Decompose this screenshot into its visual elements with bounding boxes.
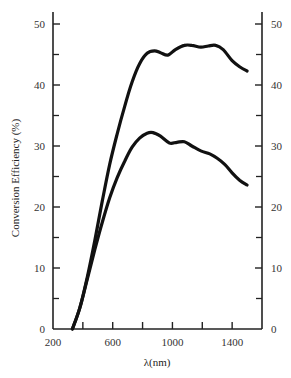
upper-efficiency-curve [72,45,247,329]
y-tick-label-right: 40 [271,79,283,91]
y-tick-label-right: 10 [271,262,283,274]
y-tick-label-right: 30 [271,140,283,152]
y-tick-label-left: 40 [34,79,46,91]
x-tick-label: 1400 [221,336,244,348]
y-tick-label-left: 0 [40,323,46,335]
y-tick-label-left: 50 [34,18,46,30]
y-tick-label-right: 0 [271,323,277,335]
x-tick-label: 600 [104,336,121,348]
y-tick-label-left: 30 [34,140,46,152]
y-tick-label-right: 20 [271,201,283,213]
lower-efficiency-curve [72,132,247,329]
efficiency-chart: 001010202030304040505020060010001400 λ(n… [0,0,291,378]
x-axis-title: λ(nm) [144,356,171,369]
x-tick-label: 1000 [161,336,184,348]
x-tick-label: 200 [45,336,62,348]
y-tick-label-left: 20 [34,201,46,213]
y-tick-label-right: 50 [271,18,283,30]
y-axis-title: Conversion Efficiency (%) [9,119,22,238]
y-tick-label-left: 10 [34,262,46,274]
data-series [72,45,247,329]
